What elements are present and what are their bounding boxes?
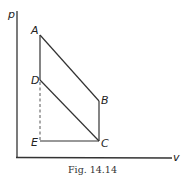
figure-caption: Fig. 14.14 <box>68 164 117 175</box>
point-label-B: B <box>101 94 109 107</box>
point-label-D: D <box>31 74 39 87</box>
segment-C-D <box>40 80 99 141</box>
x-axis-label: v <box>173 151 180 164</box>
x-axis <box>16 158 172 159</box>
y-axis-label: p <box>7 8 15 21</box>
segment-A-B <box>40 35 99 101</box>
point-label-E: E <box>31 136 38 149</box>
pv-diagram: p v A D B E C Fig. 14.14 <box>0 0 195 178</box>
point-label-C: C <box>101 137 109 150</box>
point-label-A: A <box>30 24 39 37</box>
